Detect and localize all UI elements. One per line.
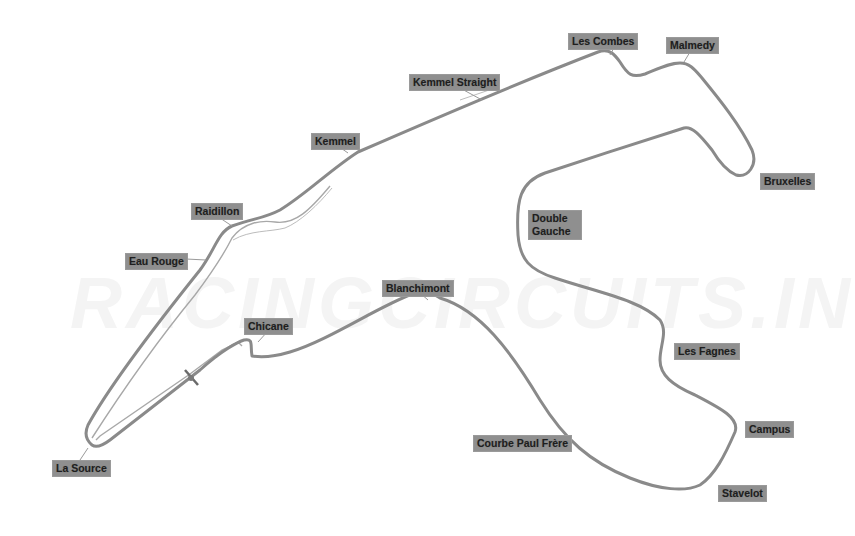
corner-label-courbe-paul-frere: Courbe Paul Frère xyxy=(473,435,572,452)
leader-eau-rouge xyxy=(186,259,206,260)
corner-label-double-gauche: Double Gauche xyxy=(528,210,582,240)
corner-label-eau-rouge: Eau Rouge xyxy=(125,253,188,270)
corner-label-kemmel: Kemmel xyxy=(311,133,360,150)
start-finish-marker xyxy=(188,375,194,381)
corner-label-kemmel-straight: Kemmel Straight xyxy=(409,74,500,91)
corner-label-les-combes: Les Combes xyxy=(568,33,638,50)
pit-lane xyxy=(92,186,330,440)
corner-label-blanchimont: Blanchimont xyxy=(382,280,454,297)
corner-label-malmedy: Malmedy xyxy=(666,37,719,54)
corner-label-les-fagnes: Les Fagnes xyxy=(674,343,740,360)
runoff-line xyxy=(233,188,332,240)
leader-la-source xyxy=(80,448,88,460)
corner-label-la-source: La Source xyxy=(52,460,111,477)
corner-label-raidillon: Raidillon xyxy=(191,203,243,220)
corner-label-stavelot: Stavelot xyxy=(718,485,767,502)
corner-label-bruxelles: Bruxelles xyxy=(760,173,815,190)
corner-label-chicane: Chicane xyxy=(244,318,293,335)
corner-label-campus: Campus xyxy=(745,421,794,438)
